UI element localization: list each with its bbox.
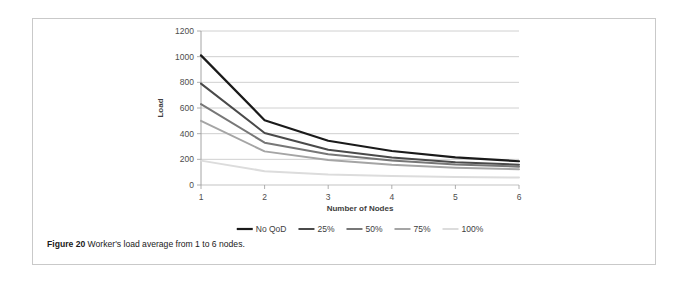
- figure-container: 020040060080010001200123456Number of Nod…: [32, 18, 656, 265]
- y-tick-label: 600: [180, 103, 194, 113]
- chart-root: 020040060080010001200123456Number of Nod…: [156, 26, 522, 234]
- x-tick-label: 6: [517, 192, 522, 202]
- y-tick-label: 1200: [175, 26, 194, 36]
- y-tick-label: 400: [180, 129, 194, 139]
- x-tick-label: 3: [326, 192, 331, 202]
- legend-label: 50%: [365, 224, 382, 234]
- x-tick-label: 1: [199, 192, 204, 202]
- figure-caption: Figure 20 Worker's load average from 1 t…: [47, 239, 641, 250]
- caption-label: Figure 20: [47, 239, 85, 249]
- legend-label: 100%: [462, 224, 484, 234]
- x-axis-title: Number of Nodes: [327, 204, 394, 213]
- x-tick-label: 4: [389, 192, 394, 202]
- y-tick-label: 800: [180, 77, 194, 87]
- y-tick-label: 0: [189, 180, 194, 190]
- y-tick-label: 200: [180, 154, 194, 164]
- y-axis-title: Load: [156, 98, 165, 117]
- caption-text: Worker's load average from 1 to 6 nodes.: [88, 239, 245, 249]
- y-tick-label: 1000: [175, 52, 194, 62]
- legend-label: 25%: [317, 224, 334, 234]
- legend-label: No QoD: [256, 224, 287, 234]
- x-tick-label: 5: [453, 192, 458, 202]
- x-tick-label: 2: [262, 192, 267, 202]
- legend-label: 75%: [413, 224, 430, 234]
- line-chart-svg: 020040060080010001200123456Number of Nod…: [153, 21, 523, 243]
- series-line: [201, 84, 519, 165]
- chart-plot: 020040060080010001200123456Number of Nod…: [153, 21, 523, 243]
